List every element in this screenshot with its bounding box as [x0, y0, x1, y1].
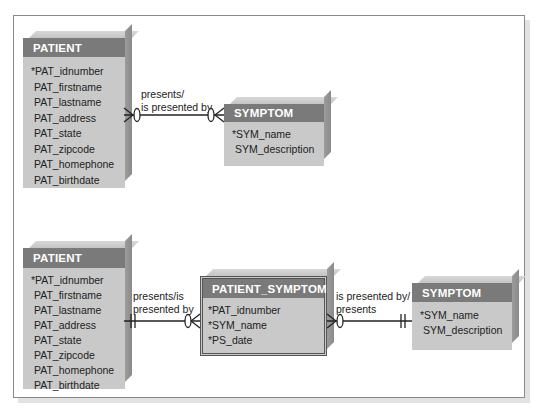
- relationship-lines: [0, 0, 541, 414]
